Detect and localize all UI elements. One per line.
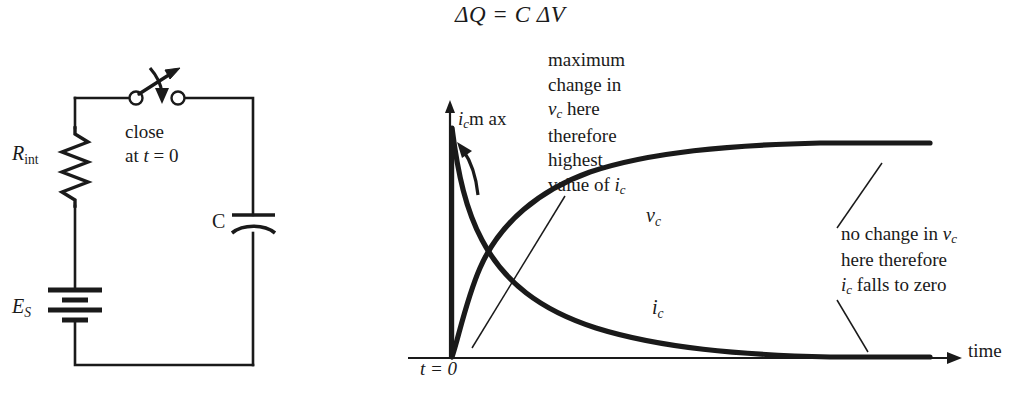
annotation-zero-line1: no change in vc <box>841 222 957 248</box>
switch-close-note-line2: at t = 0 <box>125 144 178 168</box>
capacitor-label: C <box>212 210 225 233</box>
switch-terminal-right-icon <box>172 92 185 105</box>
y-axis-arrowhead <box>445 100 455 113</box>
annotation-max-line3: vc here <box>548 97 626 123</box>
switch-close-note: close at t = 0 <box>125 120 178 169</box>
icmax-label: icm ax <box>458 108 506 132</box>
resistor-label: Rint <box>12 142 39 168</box>
curve-label-ic: ic <box>652 296 664 322</box>
annotation-zero-line2: here therefore <box>841 248 957 273</box>
curve-label-vc: vc <box>646 204 661 230</box>
x-axis-arrowhead <box>947 352 962 364</box>
x-axis-label: time <box>968 340 1002 362</box>
annotation-zero-line3: ic falls to zero <box>841 273 957 299</box>
switch-close-note-line1: close <box>125 120 178 144</box>
annotation-max-line6: value of ic <box>548 173 626 199</box>
annotation-max-line1: maximum <box>548 48 626 73</box>
annotation-max-change: maximum change in vc here therefore high… <box>548 48 626 199</box>
charging-curves-graph <box>400 0 1025 396</box>
source-label: ES <box>12 295 31 321</box>
leader-line-right-top <box>837 163 882 228</box>
figure-root: ΔQ = C ΔV <box>0 0 1025 396</box>
annotation-no-change: no change in vc here therefore ic falls … <box>841 222 957 299</box>
battery-symbol <box>48 290 102 320</box>
wire-switch-to-capacitor <box>185 98 253 215</box>
annotation-max-line4: therefore <box>548 124 626 149</box>
wire-bottom <box>75 320 253 365</box>
origin-label: t = 0 <box>420 358 457 380</box>
capacitor-symbol <box>232 215 275 233</box>
annotation-max-line5: highest <box>548 148 626 173</box>
resistor-symbol <box>62 128 88 206</box>
rc-circuit-schematic <box>0 0 400 396</box>
leader-line-left <box>472 196 565 348</box>
leader-line-right-bottom <box>837 300 868 352</box>
annotation-max-line2: change in <box>548 73 626 98</box>
